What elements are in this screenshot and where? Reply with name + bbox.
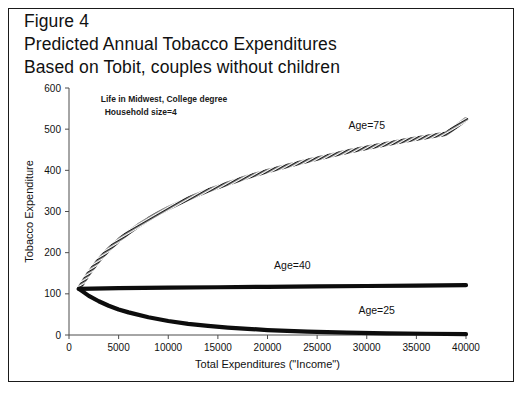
plot-area: 0100200300400500600050001000015000200002…: [0, 0, 526, 394]
figure-container: Figure 4 Predicted Annual Tobacco Expend…: [0, 0, 526, 394]
y-tick-label: 200: [44, 247, 61, 258]
x-tick-label: 5000: [108, 342, 131, 353]
series-group: [79, 119, 466, 334]
x-tick-label: 40000: [452, 342, 480, 353]
series-label-Age=25: Age=25: [358, 304, 395, 316]
axes-group: 0100200300400500600050001000015000200002…: [44, 83, 480, 354]
y-tick-label: 100: [44, 288, 61, 299]
x-tick-label: 35000: [402, 342, 430, 353]
x-tick-label: 10000: [154, 342, 182, 353]
x-tick-label: 0: [66, 342, 72, 353]
series-line-Age=75: [79, 119, 466, 289]
y-tick-label: 600: [44, 83, 61, 94]
y-tick-label: 300: [44, 206, 61, 217]
y-tick-label: 400: [44, 165, 61, 176]
x-tick-label: 20000: [254, 342, 282, 353]
x-tick-label: 30000: [353, 342, 381, 353]
y-axis-title: Tobacco Expenditure: [23, 160, 35, 263]
series-label-Age=75: Age=75: [349, 119, 386, 131]
y-tick-label: 500: [44, 124, 61, 135]
series-label-Age=40: Age=40: [274, 259, 311, 271]
series-line-Age=40: [79, 285, 466, 289]
chart-labels-group: Total Expenditures ("Income")Tobacco Exp…: [23, 94, 395, 370]
y-tick-label: 0: [55, 330, 61, 341]
x-tick-label: 25000: [303, 342, 331, 353]
x-axis-title: Total Expenditures ("Income"): [195, 358, 340, 370]
note-line-2: Household size=4: [105, 107, 177, 117]
series-line-Age=25: [79, 289, 466, 334]
note-line-1: Life in Midwest, College degree: [101, 94, 228, 104]
chart-svg: 0100200300400500600050001000015000200002…: [0, 0, 526, 394]
x-tick-label: 15000: [204, 342, 232, 353]
